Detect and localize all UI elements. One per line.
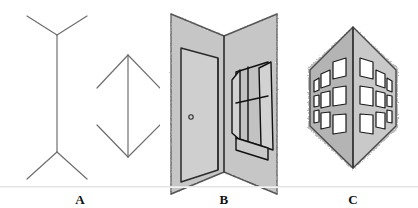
window	[376, 91, 385, 108]
fin-bottom-left-left	[27, 152, 57, 179]
window	[314, 110, 319, 123]
window	[314, 95, 319, 107]
window	[376, 112, 385, 129]
panel-a: A	[0, 0, 160, 208]
panel-a-caption: A	[0, 193, 160, 207]
inward-fins-figure	[97, 55, 160, 157]
panel-a-drawing	[0, 0, 160, 208]
fin-top-right-right	[128, 55, 160, 88]
window	[333, 114, 346, 134]
fin-top-left-right	[97, 55, 128, 88]
door	[181, 48, 218, 182]
panel-b-caption: B	[160, 193, 288, 207]
outward-fins-figure	[27, 16, 87, 179]
window	[360, 86, 373, 106]
fin-top-right-left	[57, 16, 87, 35]
panel-b: B	[160, 0, 288, 208]
illusion-figure: A	[0, 0, 418, 208]
panel-c-drawing	[288, 0, 418, 208]
panel-c: C	[288, 0, 418, 208]
panel-c-caption: C	[288, 193, 418, 207]
window-casement-left	[232, 70, 240, 140]
window	[314, 78, 319, 92]
fin-top-left-left	[27, 16, 57, 35]
window	[387, 95, 392, 107]
door-panel	[181, 48, 218, 182]
window	[360, 58, 373, 79]
window	[321, 91, 330, 108]
window-casement-right	[259, 62, 273, 150]
window	[321, 112, 330, 129]
window	[333, 58, 346, 79]
fin-bottom-right-right	[128, 125, 160, 157]
window	[360, 114, 373, 134]
window	[387, 78, 392, 92]
panel-b-drawing	[160, 0, 288, 208]
baseline-divider	[0, 186, 418, 188]
fin-bottom-left-right	[97, 125, 128, 157]
window	[232, 62, 273, 160]
fin-bottom-right-left	[57, 152, 87, 179]
window	[387, 110, 392, 123]
window	[333, 86, 346, 106]
